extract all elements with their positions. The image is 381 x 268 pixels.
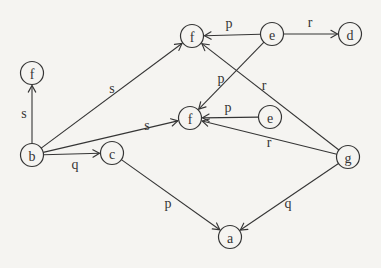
node-b: b bbox=[21, 144, 44, 167]
node-f-top: f bbox=[181, 25, 204, 48]
directed-graph-diagram: fedffebcga sssqprpprrpq bbox=[0, 0, 381, 268]
edge-label-b-to-f-mid: s bbox=[144, 118, 149, 133]
node-label-d: d bbox=[347, 28, 354, 43]
node-label-a: a bbox=[227, 231, 234, 246]
edge-label-g-to-a: q bbox=[285, 196, 292, 211]
edge-label-c-to-a: p bbox=[165, 196, 172, 211]
node-d: d bbox=[339, 23, 362, 46]
node-f-left: f bbox=[21, 62, 44, 85]
edge-label-e-top-to-f-mid: p bbox=[218, 71, 225, 86]
edge-b-to-c bbox=[43, 153, 99, 154]
edge-label-b-to-c: q bbox=[72, 157, 79, 172]
node-label-f-top: f bbox=[190, 30, 195, 45]
node-label-e-mid: e bbox=[267, 111, 273, 126]
edge-label-e-mid-to-f-mid: p bbox=[225, 100, 232, 115]
node-label-b: b bbox=[29, 149, 36, 164]
node-label-g: g bbox=[345, 151, 352, 166]
node-c: c bbox=[101, 142, 124, 165]
nodes-layer: fedffebcga bbox=[21, 23, 362, 249]
edge-label-e-top-to-d: r bbox=[308, 15, 313, 30]
node-f-mid: f bbox=[179, 107, 202, 130]
edge-label-g-to-f-mid: r bbox=[267, 135, 272, 150]
edge-label-e-top-to-f-top: p bbox=[226, 16, 233, 31]
edge-e-mid-to-f-mid bbox=[202, 117, 258, 118]
node-a: a bbox=[219, 226, 242, 249]
node-label-c: c bbox=[109, 147, 115, 162]
node-label-f-left: f bbox=[30, 67, 35, 82]
node-e-mid: e bbox=[259, 106, 282, 129]
edge-e-top-to-f-top bbox=[204, 34, 260, 35]
edge-label-b-to-f-top: s bbox=[109, 81, 114, 96]
node-label-f-mid: f bbox=[188, 112, 193, 127]
node-e-top: e bbox=[261, 23, 284, 46]
scanned-page: fedffebcga sssqprpprrpq bbox=[0, 0, 381, 268]
node-g: g bbox=[337, 146, 360, 169]
edge-label-b-to-f-left: s bbox=[21, 106, 26, 121]
edge-b-to-f-top bbox=[41, 43, 182, 148]
edge-label-g-to-f-top: r bbox=[262, 78, 267, 93]
edges-layer bbox=[32, 34, 339, 230]
node-label-e-top: e bbox=[269, 28, 275, 43]
